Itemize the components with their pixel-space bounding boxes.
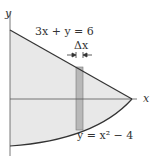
line-equation-label: 3x + y = 6	[35, 26, 94, 37]
delta-x-label: Δx	[74, 40, 88, 51]
parabola-equation-label: y = x² − 4	[77, 130, 133, 141]
y-axis-label: y	[5, 8, 11, 19]
delta-x-arrows	[67, 52, 92, 58]
delta-x-strip	[76, 67, 83, 130]
x-axis-label: x	[143, 93, 149, 104]
